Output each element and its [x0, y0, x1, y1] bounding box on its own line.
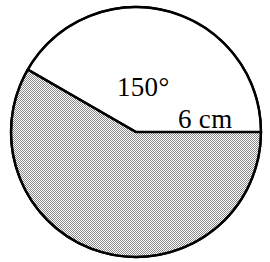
angle-label: 150° [117, 72, 170, 102]
radius-length-label: 6 cm [178, 104, 232, 134]
figure-stage: 150° 6 cm [0, 0, 270, 262]
circle-sector-diagram: 150° 6 cm [0, 0, 270, 262]
